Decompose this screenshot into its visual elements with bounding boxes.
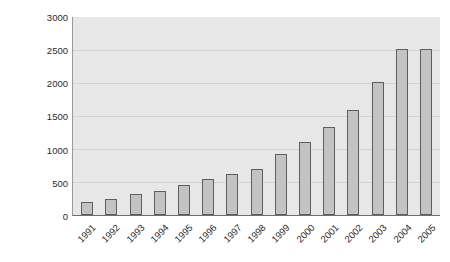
x-tick-label-2004: 2004 — [386, 222, 414, 250]
x-tick-label-2002: 2002 — [337, 222, 365, 250]
x-axis-tick-labels: 1991199219931994199519961997199819992000… — [72, 216, 440, 262]
bar-slot — [196, 17, 220, 215]
bar-slot — [75, 17, 99, 215]
x-tick-label-2005: 2005 — [410, 222, 438, 250]
bar-slot — [317, 17, 341, 215]
bar-1995[interactable] — [178, 185, 190, 215]
y-tick-label: 2000 — [47, 78, 68, 89]
bar-1993[interactable] — [130, 194, 142, 215]
bar-slot — [148, 17, 172, 215]
x-tick-label-2003: 2003 — [362, 222, 390, 250]
x-tick-label-1994: 1994 — [143, 222, 171, 250]
y-axis-tick-labels: 3000 2500 2000 1500 1000 500 0 — [24, 0, 72, 262]
y-tick-label: 2500 — [47, 45, 68, 56]
bar-slot — [390, 17, 414, 215]
bar-slot — [172, 17, 196, 215]
bar-slot — [99, 17, 123, 215]
bar-2001[interactable] — [323, 127, 335, 215]
x-tick-label-1998: 1998 — [240, 222, 268, 250]
bar-1996[interactable] — [202, 179, 214, 215]
bar-1999[interactable] — [275, 154, 287, 215]
bar-slot — [293, 17, 317, 215]
y-tick-label: 500 — [52, 178, 68, 189]
y-tick-label: 1000 — [47, 145, 68, 156]
x-tick-label-1991: 1991 — [70, 222, 98, 250]
bar-slot — [123, 17, 147, 215]
bar-2002[interactable] — [347, 110, 359, 215]
y-tick-label: 1500 — [47, 111, 68, 122]
bar-slot — [244, 17, 268, 215]
bar-2005[interactable] — [420, 49, 432, 215]
bar-1994[interactable] — [154, 191, 166, 215]
bar-2000[interactable] — [299, 142, 311, 215]
bar-1991[interactable] — [81, 202, 93, 215]
bar-slot — [220, 17, 244, 215]
bar-chart: $100 million RMB 3000 2500 2000 1500 100… — [0, 0, 450, 262]
y-tick-label: 3000 — [47, 12, 68, 23]
x-tick-label-1996: 1996 — [192, 222, 220, 250]
bar-slot — [365, 17, 389, 215]
x-tick-label-1995: 1995 — [167, 222, 195, 250]
x-tick-label-1993: 1993 — [119, 222, 147, 250]
bar-slot — [269, 17, 293, 215]
bar-1998[interactable] — [251, 169, 263, 215]
bar-series — [73, 17, 440, 215]
bar-2003[interactable] — [372, 82, 384, 215]
bar-slot — [341, 17, 365, 215]
y-tick-label: 0 — [63, 211, 68, 222]
bar-slot — [414, 17, 438, 215]
bar-1992[interactable] — [105, 199, 117, 215]
x-tick-label-1999: 1999 — [264, 222, 292, 250]
x-tick-label-2001: 2001 — [313, 222, 341, 250]
bar-2004[interactable] — [396, 49, 408, 215]
x-tick-label-1997: 1997 — [216, 222, 244, 250]
x-tick-label-1992: 1992 — [95, 222, 123, 250]
x-tick-label-2000: 2000 — [289, 222, 317, 250]
bar-1997[interactable] — [226, 174, 238, 215]
plot-area — [72, 17, 440, 216]
